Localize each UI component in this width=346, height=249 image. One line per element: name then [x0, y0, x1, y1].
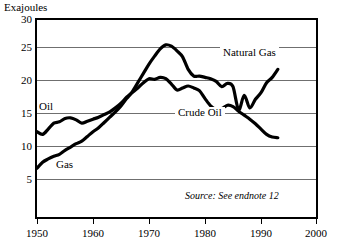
y-tick-label-30: 30 — [8, 14, 32, 25]
y-tick-label-10: 10 — [8, 141, 32, 152]
x-tick-label-2000: 2000 — [296, 228, 336, 239]
x-tick-label-1980: 1980 — [185, 228, 225, 239]
plot-area: Crude Oil Natural Gas Oil Gas Source: Se… — [37, 19, 317, 218]
y-axis-title: Exajoules — [4, 1, 47, 13]
y-tick-label-5: 5 — [8, 174, 32, 185]
x-tickmark-1990 — [261, 219, 262, 224]
line-natural-gas — [37, 45, 278, 168]
series-label-natural-gas: Natural Gas — [220, 47, 279, 58]
x-tick-label-1990: 1990 — [241, 228, 281, 239]
series-label-oil: Oil — [39, 101, 53, 112]
x-tickmark-1950 — [37, 219, 38, 224]
chart-figure: Exajoules 30 25 20 15 10 5 Crude Oil Nat… — [0, 0, 346, 249]
x-tickmark-1970 — [149, 219, 150, 224]
y-tick-label-20: 20 — [8, 75, 32, 86]
series-label-gas: Gas — [56, 159, 73, 170]
source-note: Source: See endnote 12 — [185, 190, 279, 201]
y-tick-label-25: 25 — [8, 42, 32, 53]
x-tickmark-2000 — [316, 219, 317, 224]
x-tick-label-1960: 1960 — [73, 228, 113, 239]
y-tick-label-15: 15 — [8, 108, 32, 119]
x-tickmark-1960 — [93, 219, 94, 224]
x-tick-label-1950: 1950 — [17, 228, 57, 239]
x-tickmark-1980 — [205, 219, 206, 224]
series-label-crude-oil: Crude Oil — [175, 107, 225, 118]
x-tick-label-1970: 1970 — [129, 228, 169, 239]
